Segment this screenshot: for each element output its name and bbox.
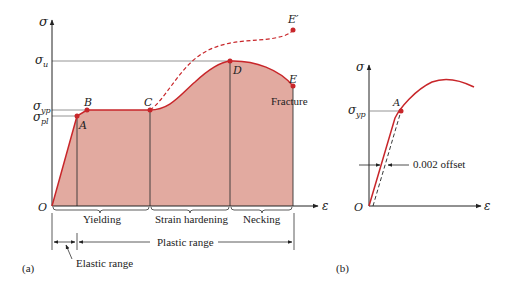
area-under-curve [52,61,293,206]
b-label-a: A [392,97,400,108]
svg-text:yp: yp [355,110,366,119]
region-necking: Necking [243,213,281,225]
label-a: A [78,119,87,132]
point-e-prime [291,28,296,33]
point-a [75,114,80,119]
svg-text:yp: yp [40,106,51,115]
stress-strain-diagram: σ ε O σ u σ yp σ pl A B C D E E′ Fractur… [0,0,508,286]
offset-label: 0.002 offset [413,158,465,170]
b-y-axis-label: σ [356,60,365,74]
label-d: D [232,64,242,77]
region-strain-hardening: Strain hardening [155,213,229,225]
panel-a: σ ε O σ u σ yp σ pl A B C D E E′ Fractur… [22,13,328,275]
x-axis-label: ε [322,199,328,213]
sigma-u-label: σ u [35,53,48,69]
svg-text:u: u [43,60,48,69]
offset-line [373,111,401,206]
b-origin-label: O [354,201,363,214]
b-point-a [399,109,404,114]
panel-a-label: (a) [22,262,35,275]
panel-b-label: (b) [336,262,349,275]
origin-label: O [38,201,47,214]
y-axis-label: σ [39,14,49,29]
b-stress-strain-curve [369,80,474,206]
label-c: C [144,96,153,109]
b-sigma-yp-label: σ yp [348,103,366,119]
point-d [228,59,233,64]
plastic-range-label: Plastic range [157,236,214,248]
label-e: E [288,73,297,86]
elastic-range-label: Elastic range [76,257,133,269]
fracture-label: Fracture [271,95,308,107]
svg-text:pl: pl [41,117,49,126]
b-x-axis-label: ε [484,199,490,213]
label-e-prime: E′ [287,13,299,26]
elastic-range-leader [66,245,72,259]
region-yielding: Yielding [83,213,121,225]
label-b: B [83,96,92,109]
panel-b: σ ε O σ yp A 0.002 offset (b) [336,60,490,275]
